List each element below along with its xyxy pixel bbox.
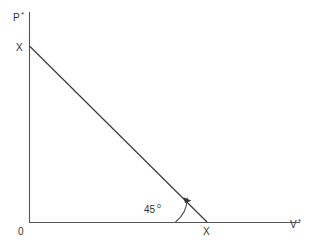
angle-label-value: 45 [144, 204, 156, 215]
y-axis-title: P [13, 12, 20, 23]
diagram-canvas: P * V * 0 X X 45 o [0, 0, 323, 248]
x-axis-title: V [290, 219, 297, 230]
y-intercept-label: X [16, 42, 23, 53]
budget-line [30, 47, 207, 223]
angle-label-degree-symbol: o [157, 202, 161, 209]
budget-line-diagram: P * V * 0 X X 45 o [0, 0, 323, 248]
origin-label: 0 [18, 226, 24, 237]
y-axis-title-star: * [21, 10, 24, 19]
x-axis-title-star: * [298, 217, 301, 226]
x-intercept-label: X [203, 226, 210, 237]
